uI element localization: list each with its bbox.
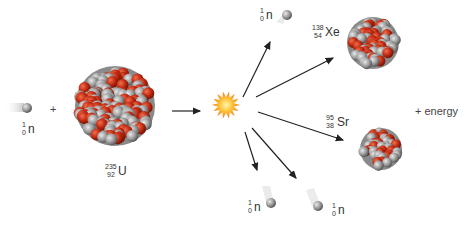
product-neutron-bottom-left xyxy=(262,186,276,208)
incoming-neutron xyxy=(4,103,32,113)
xenon-nucleus xyxy=(347,17,401,69)
plus-sign: + xyxy=(50,103,56,115)
fission-burst-icon xyxy=(212,91,240,118)
energy-label: + energy xyxy=(415,105,458,117)
fission-diagram xyxy=(0,0,465,230)
strontium-nucleus xyxy=(358,128,402,171)
uranium-nucleus xyxy=(74,66,155,146)
product-neutron-top xyxy=(276,10,292,24)
product-neutron-bottom-right xyxy=(306,188,323,211)
